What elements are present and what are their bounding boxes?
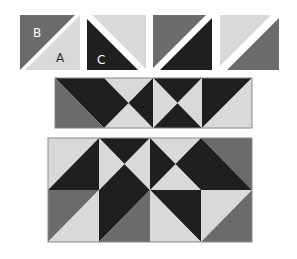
- middle-block-2: [104, 78, 153, 128]
- bottom-block-r2c3: [150, 190, 201, 242]
- middle-row: [55, 78, 252, 128]
- hst-unit-AC: C: [87, 15, 146, 70]
- fabric-key-row: B A C: [20, 15, 279, 70]
- bottom-grid: [48, 138, 252, 242]
- bottom-block-r2c4: [201, 190, 252, 242]
- label-B: B: [33, 26, 41, 40]
- bottom-block-r2c1: [48, 190, 99, 242]
- label-C: C: [97, 53, 105, 67]
- middle-block-3: [153, 78, 202, 128]
- hst-unit-AB: [220, 15, 279, 70]
- middle-block-4: [202, 78, 252, 128]
- quilt-diagram: B A C: [0, 0, 297, 259]
- middle-block-1: [55, 78, 104, 128]
- bottom-block-r1c1: [48, 138, 99, 190]
- bottom-block-r1c3: [150, 138, 201, 190]
- hst-unit-BA: B A: [20, 15, 80, 70]
- bottom-block-r2c2: [99, 190, 150, 242]
- hst-unit-BC: [153, 15, 212, 70]
- label-A: A: [56, 51, 65, 65]
- bottom-block-r1c2: [99, 138, 150, 190]
- bottom-block-r1c4: [201, 138, 252, 190]
